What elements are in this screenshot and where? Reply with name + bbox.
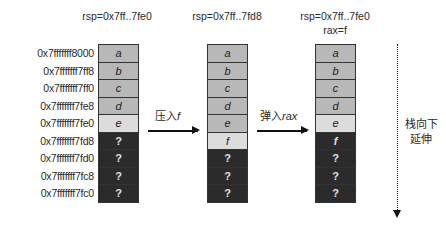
address-label: 0x7fffffff7ff0 <box>0 80 94 98</box>
stack-unused-cell: ? <box>99 133 138 151</box>
stack-unused-cell: ? <box>99 185 138 202</box>
stack-unused-cell: ? <box>316 150 355 168</box>
stack-after-push: a b c d e f ? ? ? <box>207 44 248 203</box>
stack-initial: a b c d e ? ? ? ? <box>98 44 139 203</box>
stack-cell: e <box>208 115 247 133</box>
growth-note-line2: 延伸 <box>402 132 440 147</box>
pop-label: 弹入rax <box>260 107 297 123</box>
address-label: 0x7fffffff7fe8 <box>0 98 94 116</box>
stack-cell: c <box>99 80 138 98</box>
stack-cell: a <box>99 45 138 63</box>
growth-direction-line <box>397 44 398 212</box>
rsp-label-initial: rsp=0x7ff..7fe0 <box>62 10 172 22</box>
stack-unused-cell: ? <box>99 150 138 168</box>
stack-unused-cell: ? <box>99 168 138 186</box>
stack-cell: b <box>316 63 355 81</box>
address-label: 0x7fffffff7fc0 <box>0 185 94 203</box>
stack-cell: a <box>208 45 247 63</box>
stack-cell: b <box>208 63 247 81</box>
growth-note: 栈向下 延伸 <box>402 117 440 147</box>
address-label: 0x7fffffff7fc8 <box>0 168 94 186</box>
stack-unused-cell: f <box>316 133 355 151</box>
address-label: 0x7fffffff7fd8 <box>0 133 94 151</box>
stack-cell: d <box>208 98 247 116</box>
address-label: 0x7fffffff7fd0 <box>0 150 94 168</box>
rsp-label-after-pop: rsp=0x7ff..7fe0 <box>280 10 390 22</box>
stack-top-cell: e <box>99 115 138 133</box>
stack-unused-cell: ? <box>316 185 355 202</box>
push-label: 压入f <box>155 107 180 123</box>
stack-top-cell: f <box>208 133 247 151</box>
stack-unused-cell: ? <box>208 168 247 186</box>
stack-unused-cell: ? <box>208 150 247 168</box>
rax-label-after-pop: rax=f <box>280 24 390 36</box>
address-label: 0x7fffffff7fe0 <box>0 115 94 133</box>
stack-cell: a <box>316 45 355 63</box>
arrow-down-icon <box>393 210 401 218</box>
stack-cell: c <box>316 80 355 98</box>
stack-after-pop: a b c d e f ? ? ? <box>315 44 356 203</box>
address-label: 0x7fffffff8000 <box>0 45 94 63</box>
pop-operand: rax <box>282 110 297 122</box>
stack-unused-cell: ? <box>208 185 247 202</box>
pop-arrow-icon <box>257 130 307 132</box>
stack-unused-cell: ? <box>316 168 355 186</box>
rsp-label-after-push: rsp=0x7ff..7fd8 <box>172 10 282 22</box>
push-prefix: 压入 <box>155 110 177 122</box>
growth-note-line1: 栈向下 <box>402 117 440 132</box>
push-arrow-icon <box>148 130 198 132</box>
address-label: 0x7fffffff7ff8 <box>0 63 94 81</box>
stack-cell: b <box>99 63 138 81</box>
push-operand: f <box>177 110 180 122</box>
stack-cell: d <box>316 98 355 116</box>
stack-top-cell: e <box>316 115 355 133</box>
stack-cell: d <box>99 98 138 116</box>
stack-cell: c <box>208 80 247 98</box>
pop-prefix: 弹入 <box>260 110 282 122</box>
